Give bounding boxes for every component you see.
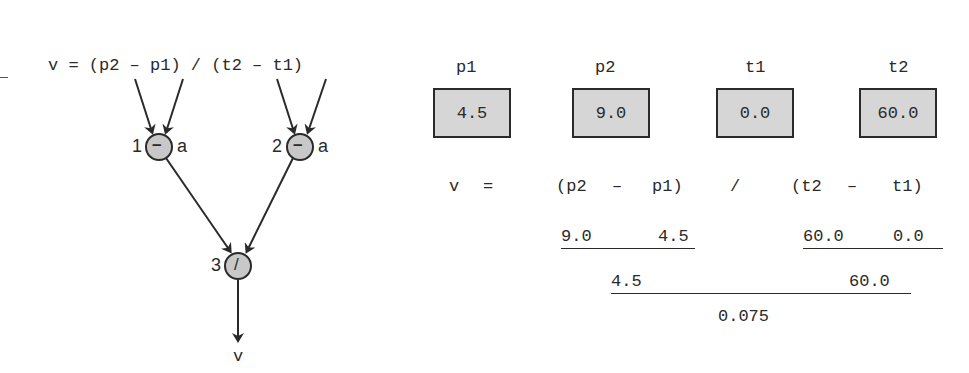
eval-p2-value: 9.0 xyxy=(561,227,592,246)
eval-equals: = xyxy=(483,177,493,196)
node-2-side-label: a xyxy=(318,136,328,157)
eval-numerator: 4.5 xyxy=(611,272,642,291)
node-1-op: – xyxy=(152,135,161,155)
var-t2-box: 60.0 xyxy=(859,88,937,138)
output-label: v xyxy=(233,347,243,366)
arrow-t2-to-node2 xyxy=(277,79,294,132)
eval-minus-2: – xyxy=(847,177,857,196)
var-p1-value: 4.5 xyxy=(457,104,488,123)
var-t1-label: t1 xyxy=(745,58,765,77)
node-1-id: 1 xyxy=(132,136,142,157)
arrow-t1-to-node2 xyxy=(308,79,326,132)
arrow-p2-to-node1 xyxy=(135,79,152,132)
var-t2-value: 60.0 xyxy=(878,104,919,123)
eval-close-t1: t1) xyxy=(892,177,923,196)
subtraction-rule-1 xyxy=(561,248,695,249)
arrow-node1-to-node3 xyxy=(166,158,230,251)
var-p1-label: p1 xyxy=(456,58,476,77)
eval-minus-1: – xyxy=(612,177,622,196)
var-t2-label: t2 xyxy=(888,58,908,77)
node-2-op: – xyxy=(293,135,302,155)
var-p2-box: 9.0 xyxy=(572,88,650,138)
arrow-p1-to-node1 xyxy=(166,79,183,132)
node-2-id: 2 xyxy=(272,136,282,157)
division-rule xyxy=(611,293,911,294)
eval-t1-value: 0.0 xyxy=(893,227,924,246)
eval-result: 0.075 xyxy=(718,307,769,326)
eval-open-p2: (p2 xyxy=(556,177,587,196)
arrow-node2-to-node3 xyxy=(247,158,293,251)
var-p2-label: p2 xyxy=(595,58,615,77)
var-p2-value: 9.0 xyxy=(596,104,627,123)
var-p1-box: 4.5 xyxy=(433,88,511,138)
eval-denominator: 60.0 xyxy=(849,272,890,291)
eval-open-t2: (t2 xyxy=(791,177,822,196)
node-3-op: / xyxy=(234,255,239,275)
subtraction-rule-2 xyxy=(803,248,943,249)
node-1-side-label: a xyxy=(177,136,187,157)
eval-divide: / xyxy=(730,177,740,196)
eval-lhs: v xyxy=(449,177,459,196)
eval-close-p1: p1) xyxy=(652,177,683,196)
eval-t2-value: 60.0 xyxy=(803,227,844,246)
eval-p1-value: 4.5 xyxy=(658,227,689,246)
var-t1-box: 0.0 xyxy=(716,88,794,138)
var-t1-value: 0.0 xyxy=(740,104,771,123)
node-3-id: 3 xyxy=(211,255,221,276)
